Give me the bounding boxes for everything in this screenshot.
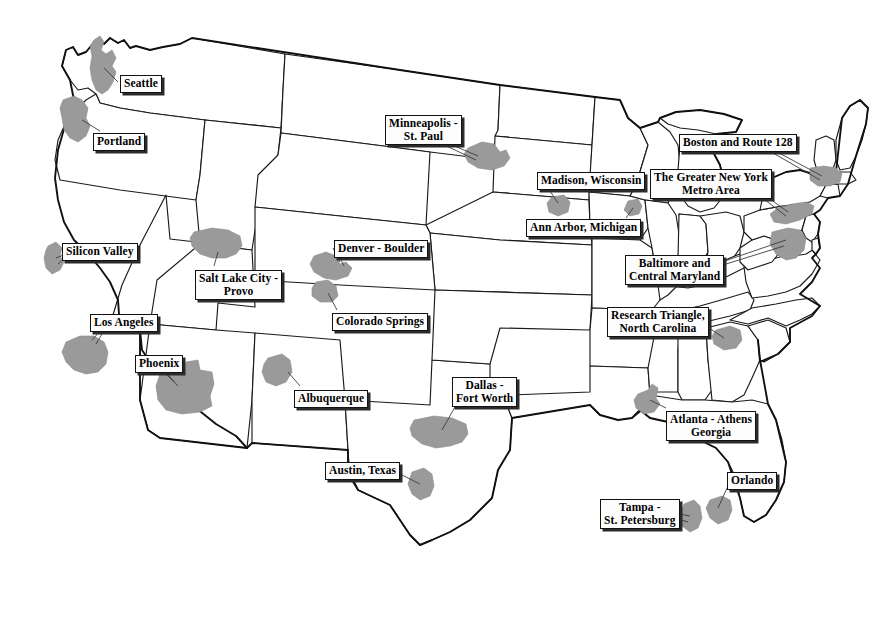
map-label-research-triangle[interactable]: Research Triangle, North Carolina [607, 307, 709, 337]
boston-blob [810, 166, 842, 186]
map-label-los-angeles[interactable]: Los Angeles [90, 314, 158, 332]
map-label-minneapolis[interactable]: Minneapolis - St. Paul [385, 115, 462, 145]
map-label-albuquerque[interactable]: Albuquerque [294, 390, 368, 408]
map-label-orlando[interactable]: Orlando [727, 472, 777, 490]
tampa-blob [680, 500, 702, 532]
map-label-portland[interactable]: Portland [93, 133, 145, 151]
map-label-phoenix[interactable]: Phoenix [135, 355, 183, 373]
map-canvas [0, 0, 893, 617]
los-angeles-blob [62, 336, 108, 374]
map-label-tampa[interactable]: Tampa - St. Petersburg [600, 499, 680, 529]
map-label-silicon-valley[interactable]: Silicon Valley [62, 243, 138, 261]
map-label-austin[interactable]: Austin, Texas [325, 462, 400, 480]
silicon-valley-blob [44, 242, 64, 274]
orlando-blob [706, 496, 732, 524]
map-label-madison[interactable]: Madison, Wisconsin [537, 172, 645, 190]
map-label-denver-boulder[interactable]: Denver - Boulder [334, 240, 428, 258]
map-label-baltimore[interactable]: Baltimore and Central Maryland [625, 255, 724, 285]
map-label-seattle[interactable]: Seattle [120, 75, 162, 93]
map-label-ann-arbor[interactable]: Ann Arbor, Michigan [526, 219, 641, 237]
map-label-salt-lake-city[interactable]: Salt Lake City - Provo [195, 270, 282, 300]
map-label-boston[interactable]: Boston and Route 128 [679, 134, 797, 152]
map-label-dallas-fort-worth[interactable]: Dallas - Fort Worth [452, 377, 517, 407]
map-label-colorado-springs[interactable]: Colorado Springs [332, 313, 428, 331]
map-label-new-york[interactable]: The Greater New York Metro Area [650, 169, 772, 199]
us-tech-hubs-map: Seattle Portland Silicon Valley Los Ange… [0, 0, 893, 617]
map-label-atlanta[interactable]: Atlanta - Athens Georgia [666, 411, 756, 441]
